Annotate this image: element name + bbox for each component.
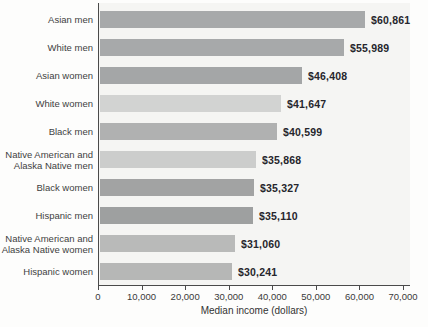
bar-row: Hispanic men$35,110 <box>0 207 428 224</box>
value-label: $60,861 <box>371 14 410 26</box>
value-label: $35,868 <box>262 154 301 166</box>
bar-row: Hispanic women$30,241 <box>0 263 428 280</box>
category-label: Asian women <box>0 70 100 81</box>
bar-row: Black women$35,327 <box>0 179 428 196</box>
value-label: $31,060 <box>241 238 280 250</box>
value-label: $40,599 <box>283 126 322 138</box>
category-label: Native American and Alaska Native women <box>0 233 100 255</box>
value-label: $55,989 <box>350 42 389 54</box>
category-label: Black men <box>0 126 100 137</box>
category-label: Asian men <box>0 14 100 25</box>
x-tick-mark <box>185 286 186 290</box>
category-label: White women <box>0 98 100 109</box>
bar <box>100 207 253 224</box>
value-label: $41,647 <box>287 98 326 110</box>
category-label: Black women <box>0 182 100 193</box>
bar <box>100 11 365 28</box>
category-label: Hispanic men <box>0 210 100 221</box>
bar-row: White women$41,647 <box>0 95 428 112</box>
bar <box>100 151 256 168</box>
x-tick-mark <box>272 286 273 290</box>
value-label: $35,110 <box>259 210 298 222</box>
bar-row: White men$55,989 <box>0 39 428 56</box>
x-tick-mark <box>229 286 230 290</box>
x-tick-mark <box>316 286 317 290</box>
bar-row: Asian women$46,408 <box>0 67 428 84</box>
bar <box>100 95 281 112</box>
bar-row: Black men$40,599 <box>0 123 428 140</box>
x-tick-mark <box>142 286 143 290</box>
bar <box>100 235 235 252</box>
value-label: $35,327 <box>260 182 299 194</box>
value-label: $46,408 <box>308 70 347 82</box>
x-tick-mark <box>403 286 404 290</box>
bar <box>100 67 302 84</box>
x-tick-mark <box>359 286 360 290</box>
bar <box>100 179 254 196</box>
bar-row: Asian men$60,861 <box>0 11 428 28</box>
bar-row: Native American and Alaska Native men$35… <box>0 151 428 168</box>
x-tick-label: 70,000 <box>377 291 428 302</box>
category-label: Hispanic women <box>0 266 100 277</box>
value-label: $30,241 <box>238 266 277 278</box>
bar-chart: Asian men$60,861White men$55,989Asian wo… <box>0 0 428 327</box>
x-tick-mark <box>98 286 99 290</box>
category-label: Native American and Alaska Native men <box>0 149 100 171</box>
bar <box>100 263 232 280</box>
x-axis-title: Median income (dollars) <box>98 305 410 316</box>
category-label: White men <box>0 42 100 53</box>
bar-row: Native American and Alaska Native women$… <box>0 235 428 252</box>
bar <box>100 123 277 140</box>
bar <box>100 39 344 56</box>
